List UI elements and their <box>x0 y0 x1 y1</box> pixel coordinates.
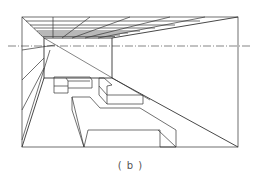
ceiling-grid <box>26 17 205 38</box>
diagonal-line <box>44 38 150 100</box>
perspective-drawing <box>0 0 261 180</box>
ceiling-left-edge <box>22 17 44 38</box>
left-wall-lines <box>22 45 55 140</box>
figure-caption: ( b ) <box>0 160 261 171</box>
ceiling-right-edge <box>112 17 238 38</box>
block-left <box>54 77 92 93</box>
floor-right-edge <box>112 78 238 147</box>
